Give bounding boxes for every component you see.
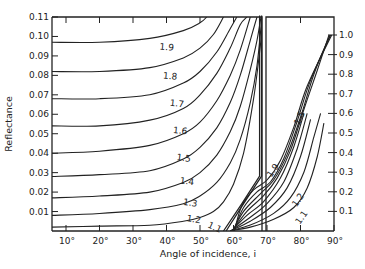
- boundary-line-1: [226, 15, 262, 231]
- curve-label: 1.9: [159, 41, 174, 52]
- reflectance-chart: 10°20°30°40°50°60°70°80°90°0.010.020.030…: [0, 0, 365, 269]
- x-tick-label: 50°: [193, 236, 209, 246]
- x-tick-label: 10°: [59, 236, 75, 246]
- y-right-tick-label: 0.8: [339, 69, 354, 79]
- y-right-tick-label: 0.3: [339, 167, 353, 177]
- curve-left-n1.9: [52, 17, 207, 43]
- curve-left-n1.7: [52, 17, 237, 99]
- y-right-tick-label: 0.9: [339, 50, 354, 60]
- y-axis-label: Reflectance: [3, 96, 14, 152]
- x-tick-label: 80°: [294, 236, 310, 246]
- y-left-tick-label: 0.10: [29, 31, 49, 41]
- curve-label: 1.8: [163, 71, 178, 82]
- curve-left-n1.8: [52, 17, 224, 72]
- y-left-tick-label: 0.08: [29, 70, 49, 80]
- y-left-tick-label: 0.06: [29, 109, 49, 119]
- y-right-tick-label: 0.5: [339, 128, 353, 138]
- curve-label: 1.4: [179, 175, 195, 187]
- y-right-tick-label: 1.0: [339, 30, 354, 40]
- x-tick-label: 20°: [93, 236, 109, 246]
- x-tick-label: 70°: [260, 236, 276, 246]
- y-left-tick-label: 0.09: [29, 51, 49, 61]
- y-left-tick-label: 0.02: [29, 187, 49, 197]
- curve-left-n1.3: [52, 17, 261, 198]
- curve-label: 1.7: [169, 98, 184, 109]
- curve-label: 1.1: [206, 220, 223, 235]
- curve-label: 1.6: [173, 125, 189, 136]
- curve-right-n1.9: [234, 35, 332, 231]
- curve-label: 1.1: [293, 209, 309, 226]
- y-left-tick-label: 0.07: [29, 90, 49, 100]
- curve-label: 1.2: [186, 213, 202, 225]
- x-tick-label: 30°: [126, 236, 142, 246]
- y-left-tick-label: 0.04: [29, 148, 49, 158]
- y-right-tick-label: 0.2: [339, 187, 353, 197]
- y-right-tick-label: 0.6: [339, 108, 354, 118]
- y-left-tick-label: 0.03: [29, 168, 49, 178]
- x-tick-label: 40°: [160, 236, 176, 246]
- curve-left-n1.1: [52, 17, 263, 227]
- y-right-tick-label: 0.1: [339, 206, 353, 216]
- y-left-tick-label: 0.05: [29, 129, 49, 139]
- x-tick-label: 60°: [227, 236, 243, 246]
- y-left-tick-label: 0.11: [29, 12, 49, 22]
- y-right-tick-label: 0.7: [339, 89, 353, 99]
- y-right-tick-label: 0.4: [339, 148, 354, 158]
- curve-label: 1.5: [176, 152, 191, 164]
- curve-left-n1.5: [52, 17, 250, 153]
- left-panel-border: [52, 17, 262, 231]
- x-axis-label: Angle of incidence, i: [160, 248, 256, 259]
- curve-label: 1.3: [183, 197, 199, 209]
- curve-labels: 1.91.81.71.61.51.41.31.21.11.91.51.21.1: [159, 41, 309, 234]
- y-left-tick-label: 0.01: [29, 207, 49, 217]
- x-tick-label: 90°: [327, 236, 343, 246]
